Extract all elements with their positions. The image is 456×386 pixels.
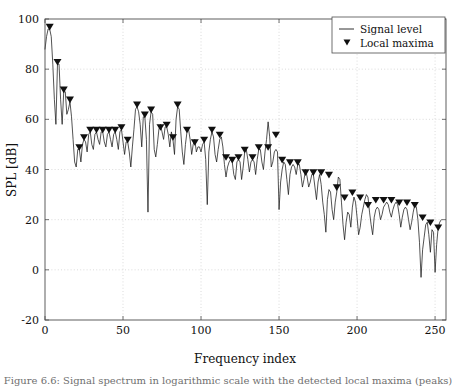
chart-legend: Signal level Local maxima — [332, 17, 445, 53]
y-tick-label-20: 20 — [25, 214, 39, 227]
y-tick-label-neg20: -20 — [21, 314, 39, 327]
figure-container: 050100150200250 -20020406080100 Frequenc… — [0, 0, 456, 386]
y-tick-label-60: 60 — [25, 113, 39, 126]
legend-label-signal-level: Signal level — [360, 23, 423, 35]
y-axis-title: SPL [dB] — [5, 143, 19, 197]
x-tick-label-50: 50 — [116, 324, 130, 337]
x-axis-title: Frequency index — [194, 352, 296, 366]
figure-caption: Figure 6.6: Signal spectrum in logarithm… — [4, 375, 453, 386]
x-tick-label-0: 0 — [42, 324, 49, 337]
y-tick-label-0: 0 — [32, 264, 39, 277]
y-tick-label-40: 40 — [25, 164, 39, 177]
y-axis-tick-labels: -20020406080100 — [18, 13, 39, 327]
x-tick-label-100: 100 — [191, 324, 212, 337]
spl-spectrum-chart: 050100150200250 -20020406080100 Frequenc… — [0, 0, 456, 386]
y-tick-label-100: 100 — [18, 13, 39, 26]
legend-label-local-maxima: Local maxima — [360, 37, 434, 49]
x-axis-tick-labels: 050100150200250 — [42, 324, 446, 337]
plot-area-background — [45, 19, 446, 320]
y-tick-label-80: 80 — [25, 63, 39, 76]
x-tick-label-250: 250 — [425, 324, 446, 337]
x-tick-label-150: 150 — [269, 324, 290, 337]
x-tick-label-200: 200 — [347, 324, 368, 337]
